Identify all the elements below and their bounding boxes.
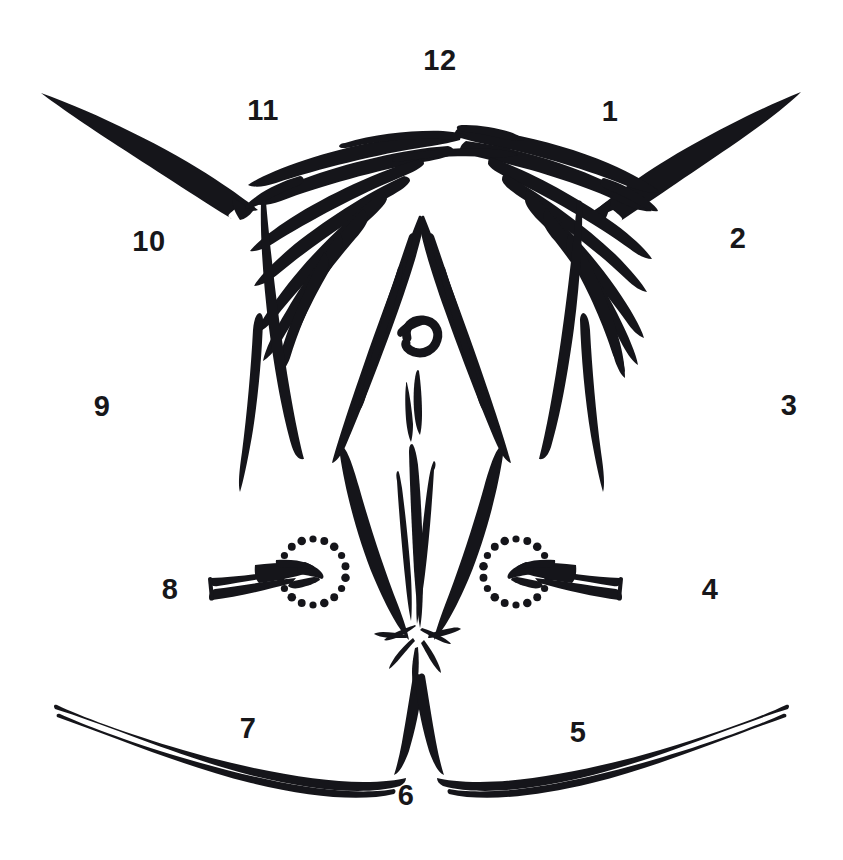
dotted-circle-dot [320,537,328,545]
dotted-circle-dot [480,574,488,582]
stroke-central-spire [332,216,511,463]
clock-label-2: 2 [730,224,747,253]
clock-label-3: 3 [781,391,798,420]
dotted-circle-dot [288,543,296,551]
dotted-circle-dot [523,537,531,545]
dotted-circle-dot [490,593,499,602]
dotted-circle-dot [512,535,519,542]
stroke-bottom-left-arc [54,705,406,798]
dotted-circle-dot [298,599,306,607]
dotted-circle-dot [491,543,499,551]
clock-label-9: 9 [94,392,111,421]
ink-drawing [0,0,843,860]
dotted-circle-dot [309,535,316,542]
stroke-lower-teardrop [340,444,504,640]
clock-label-11: 11 [247,96,279,125]
dotted-circle-dot [320,599,329,608]
stroke-fan-top-right [455,128,660,378]
clock-label-6: 6 [398,781,415,810]
dotted-circle-dot [338,552,345,559]
clock-label-7: 7 [240,714,257,743]
dotted-circle-dot [309,601,316,608]
dotted-circle-dot [501,599,509,607]
stroke-bottom-right-arc [394,674,789,798]
clock-label-8: 8 [162,575,179,604]
dotted-circle-dot [484,585,491,592]
dotted-circle-dot [479,562,488,571]
clock-label-1: 1 [602,97,619,126]
dotted-circle-dot [484,552,491,559]
dotted-circle-dot [330,593,338,601]
dotted-circle-dot [338,585,345,592]
dotted-circle-dot [341,573,350,582]
clock-label-4: 4 [702,575,719,604]
dotted-circle-dot [512,601,519,608]
clock-label-5: 5 [570,718,587,747]
arrow-left-pointing-right [208,560,324,601]
dotted-circle-dot [287,593,296,602]
dotted-circle-dot [342,562,350,570]
dotted-circle-dot [533,593,541,601]
arrow-right-pointing-left [508,560,624,601]
stroke-upper-left-antenna [41,93,258,220]
dotted-circle-dot [281,552,288,559]
dotted-circle-dot [297,537,306,546]
dotted-circle-dot [523,599,532,608]
dotted-circle-dot [500,537,509,546]
clock-label-12: 12 [423,46,456,75]
dotted-circle-dot [533,542,542,551]
figure-illustration: 121234567891011 [0,0,843,860]
clock-label-10: 10 [132,227,165,256]
dotted-circle-dot [541,552,548,559]
dotted-circle-dot [281,585,288,592]
dotted-circle-dot [330,542,339,551]
